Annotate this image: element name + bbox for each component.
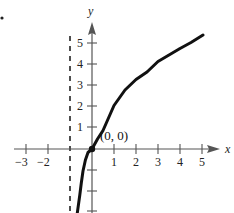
x-tick-label-3: 3	[155, 155, 161, 169]
y-tick-label-3: 3	[77, 78, 83, 92]
origin-point-marker	[89, 146, 95, 152]
y-axis-label: y	[87, 4, 94, 18]
x-tick-label-4: 4	[177, 155, 183, 169]
x-axis-label: x	[224, 142, 231, 156]
y-tick-label-1: 1	[77, 120, 83, 134]
x-tick-label-5: 5	[199, 155, 205, 169]
graph-canvas: y x (0, 0) −3 −2 1 2 3 4 5 5 4 3 2 1	[0, 0, 234, 213]
x-tick-label-2: 2	[133, 155, 139, 169]
log-curve	[77, 35, 203, 213]
x-tick-label-1: 1	[111, 155, 117, 169]
x-tick-label-neg2: −2	[37, 155, 50, 169]
y-tick-label-4: 4	[77, 57, 83, 71]
x-tick-label-neg3: −3	[15, 155, 28, 169]
y-tick-label-5: 5	[77, 36, 83, 50]
y-tick-label-2: 2	[77, 99, 83, 113]
origin-point-label: (0, 0)	[100, 128, 128, 143]
corner-dot	[0, 16, 3, 19]
